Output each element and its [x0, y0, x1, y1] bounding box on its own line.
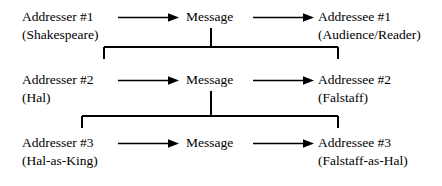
- row-3-addressee-detail: (Falstaff-as-Hal): [318, 152, 408, 170]
- row-1: Addresser #1 (Shakespeare) Message Addre…: [0, 8, 442, 52]
- row-2-addresser-detail: (Hal): [22, 89, 94, 107]
- row-3-addresser: Addresser #3 (Hal-as-King): [22, 134, 98, 170]
- row-2-addresser-label: Addresser #2: [22, 71, 94, 89]
- row-1-addresser: Addresser #1 (Shakespeare): [22, 8, 98, 44]
- row-1-addressee-detail: (Audience/Reader): [318, 26, 421, 44]
- row-1-message-label: Message: [186, 8, 233, 26]
- row-1-addressee-label: Addressee #1: [318, 8, 421, 26]
- row-1-arrow-message-to-addressee: [253, 12, 315, 23]
- row-3-message-label: Message: [186, 134, 233, 152]
- row-2-arrow-message-to-addressee: [253, 75, 315, 86]
- row-1-message: Message: [186, 8, 233, 26]
- row-3-arrow-addresser-to-message: [118, 138, 180, 149]
- row-2-addressee: Addressee #2 (Falstaff): [318, 71, 391, 107]
- row-2-arrow-addresser-to-message: [118, 75, 180, 86]
- row-2-message-label: Message: [186, 71, 233, 89]
- row-1-arrow-addresser-to-message: [118, 12, 180, 23]
- communication-model-diagram: Addresser #1 (Shakespeare) Message Addre…: [0, 0, 442, 186]
- row-3-message: Message: [186, 134, 233, 152]
- row-3-addressee-label: Addressee #3: [318, 134, 408, 152]
- row-2-message: Message: [186, 71, 233, 89]
- row-3-addressee: Addressee #3 (Falstaff-as-Hal): [318, 134, 408, 170]
- row-1-addresser-label: Addresser #1: [22, 8, 98, 26]
- row-2-addressee-label: Addressee #2: [318, 71, 391, 89]
- row-3-addresser-detail: (Hal-as-King): [22, 152, 98, 170]
- row-3-addresser-label: Addresser #3: [22, 134, 98, 152]
- row-2: Addresser #2 (Hal) Message Addressee #2 …: [0, 71, 442, 115]
- row-3-arrow-message-to-addressee: [253, 138, 315, 149]
- row-3: Addresser #3 (Hal-as-King) Message Addre…: [0, 134, 442, 178]
- row-1-addressee: Addressee #1 (Audience/Reader): [318, 8, 421, 44]
- row-1-addresser-detail: (Shakespeare): [22, 26, 98, 44]
- row-2-addressee-detail: (Falstaff): [318, 89, 391, 107]
- row-2-addresser: Addresser #2 (Hal): [22, 71, 94, 107]
